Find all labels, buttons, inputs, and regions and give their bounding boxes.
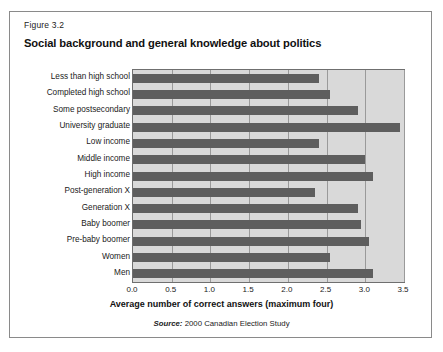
bar [133, 269, 373, 278]
bar [133, 90, 330, 99]
gridline [404, 70, 405, 282]
category-label: Completed high school [10, 88, 130, 98]
category-label: Less than high school [10, 72, 130, 82]
category-label: Pre-baby boomer [10, 235, 130, 245]
x-tick-label: 3.5 [397, 285, 408, 294]
category-label: Some postsecondary [10, 105, 130, 115]
bar [133, 155, 365, 164]
x-tick-label: 2.0 [281, 285, 292, 294]
x-tick-label: 1.5 [243, 285, 254, 294]
bar [133, 106, 358, 115]
source-prefix: Source: [153, 319, 182, 328]
chart-area: Less than high schoolCompleted high scho… [10, 58, 433, 339]
plot-area [132, 69, 405, 283]
x-tick-label: 0.0 [126, 285, 137, 294]
source-text: 2000 Canadian Election Study [185, 319, 290, 328]
category-label: Baby boomer [10, 219, 130, 229]
bar [133, 253, 330, 262]
category-label: Low income [10, 137, 130, 147]
bar [133, 139, 319, 148]
category-label: Women [10, 252, 130, 262]
bar [133, 188, 315, 197]
category-label: Generation X [10, 203, 130, 213]
category-label: High income [10, 170, 130, 180]
bar [133, 123, 400, 132]
category-label: University graduate [10, 121, 130, 131]
figure-number: Figure 3.2 [24, 20, 64, 30]
bar [133, 172, 373, 181]
category-label: Post-generation X [10, 186, 130, 196]
x-tick-label: 0.5 [165, 285, 176, 294]
x-tick-label: 2.5 [320, 285, 331, 294]
figure-card: Figure 3.2 Social background and general… [9, 11, 432, 338]
source-note: Source: 2000 Canadian Election Study [10, 319, 433, 328]
category-axis-labels: Less than high schoolCompleted high scho… [10, 69, 130, 281]
x-axis-ticks: 0.00.51.01.52.02.53.03.5 [132, 285, 403, 297]
bar [133, 74, 319, 83]
bar [133, 237, 369, 246]
x-tick-label: 1.0 [204, 285, 215, 294]
bar [133, 204, 358, 213]
x-axis-title: Average number of correct answers (maxim… [10, 299, 433, 309]
x-tick-label: 3.0 [359, 285, 370, 294]
category-label: Men [10, 268, 130, 278]
category-label: Middle income [10, 154, 130, 164]
figure-title: Social background and general knowledge … [24, 37, 321, 49]
bar [133, 220, 361, 229]
